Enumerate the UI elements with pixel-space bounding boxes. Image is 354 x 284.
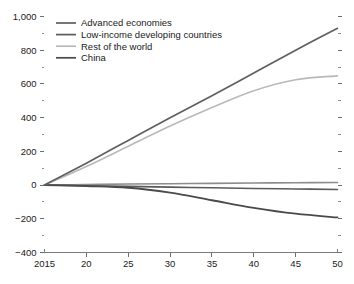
x-tick-label: 2015 xyxy=(34,258,55,269)
y-axis-ticks-left xyxy=(40,17,44,253)
x-axis xyxy=(45,249,338,257)
legend-label: China xyxy=(81,52,107,63)
x-tick-label: 50 xyxy=(332,258,343,269)
line-chart: 1,0008006004002000−200−400 2015202530354… xyxy=(0,0,354,284)
series-line xyxy=(45,185,338,217)
y-tick-label: 400 xyxy=(21,112,37,123)
series-line xyxy=(45,183,338,186)
x-tick-label: 45 xyxy=(290,258,301,269)
y-tick-label: 200 xyxy=(21,146,37,157)
y-tick-label: 0 xyxy=(31,179,36,190)
chart-legend: Advanced economiesLow-income developing … xyxy=(56,17,222,63)
y-tick-label: −400 xyxy=(15,247,36,258)
legend-label: Low-income developing countries xyxy=(81,29,222,40)
series-line xyxy=(45,76,338,185)
legend-label: Rest of the world xyxy=(81,41,152,52)
x-tick-label: 20 xyxy=(81,258,92,269)
x-tick-label: 30 xyxy=(165,258,176,269)
chart-container: 1,0008006004002000−200−400 2015202530354… xyxy=(0,0,354,284)
x-tick-label: 40 xyxy=(248,258,259,269)
legend-label: Advanced economies xyxy=(81,17,172,28)
y-tick-label: 600 xyxy=(21,78,37,89)
x-axis-tick-labels: 201520253035404550 xyxy=(34,258,343,269)
x-tick-label: 25 xyxy=(123,258,134,269)
y-tick-label: −200 xyxy=(15,213,36,224)
y-tick-label: 800 xyxy=(21,45,37,56)
y-axis-tick-labels: 1,0008006004002000−200−400 xyxy=(13,11,37,258)
y-tick-label: 1,000 xyxy=(13,11,37,22)
x-tick-label: 35 xyxy=(207,258,218,269)
